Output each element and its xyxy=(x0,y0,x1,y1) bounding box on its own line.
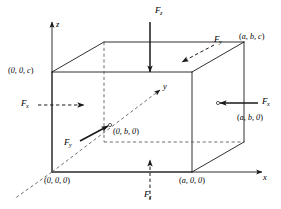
vertex-text: a, b, c xyxy=(242,32,262,41)
force-y-front-label: Fy xyxy=(64,138,72,147)
edge-top-right-oblique xyxy=(192,42,244,72)
paren-close: ) xyxy=(31,66,34,75)
paren-close: ) xyxy=(136,127,139,136)
force-subscript: z xyxy=(160,9,162,16)
x-axis-label: x xyxy=(263,173,267,182)
vertex-label-x-corner: (a, 0, 0) xyxy=(179,177,205,185)
vertex-label-xy-corner: (a, b, 0) xyxy=(237,114,263,122)
vertex-label-origin: (0, 0, 0) xyxy=(44,177,70,185)
vertex-text: a, 0, 0 xyxy=(182,176,202,185)
vertex-text: 0, 0, 0 xyxy=(47,176,67,185)
cube-solid-edges xyxy=(52,42,244,172)
force-x-right-label: Fx xyxy=(262,97,270,106)
z-axis-label: z xyxy=(56,20,59,29)
force-subscript: y xyxy=(69,141,72,148)
vertex-text: a, b, 0 xyxy=(240,113,260,122)
paren-close: ) xyxy=(260,113,263,122)
force-subscript: x xyxy=(26,102,29,109)
force-y-front-arrow xyxy=(80,126,108,141)
vertex-label-y-corner: (0, b, 0) xyxy=(113,128,139,136)
force-subscript: x xyxy=(267,100,270,107)
edge-top-left-oblique xyxy=(52,42,104,72)
paren-close: ) xyxy=(202,176,205,185)
vertex-label-z-corner: (0, 0, c) xyxy=(8,67,33,75)
paren-close: ) xyxy=(67,176,70,185)
force-cube-diagram: z y x (0, 0, c) (0, 0, 0) (a, 0, 0) (0, … xyxy=(0,0,281,209)
force-y-back-arrow xyxy=(182,45,214,62)
force-z-top-label: Fz xyxy=(155,6,163,15)
vertex-label-xyz-corner: (a, b, c) xyxy=(239,33,264,41)
paren-close: ) xyxy=(262,32,265,41)
force-subscript: y xyxy=(219,38,222,45)
force-y-back-label: Fy xyxy=(214,35,222,44)
force-y-front-tip-dot xyxy=(108,123,111,126)
vertex-text: 0, 0, c xyxy=(11,66,31,75)
force-z-bottom-label: Fz xyxy=(144,190,152,199)
force-x-left-label: Fx xyxy=(21,99,29,108)
force-x-right-origin-dot xyxy=(216,101,219,104)
force-subscript: z xyxy=(149,193,151,200)
y-axis-line xyxy=(52,90,160,172)
edge-bottom-right-oblique xyxy=(192,142,244,172)
y-axis-label: y xyxy=(163,82,167,91)
vertex-text: 0, b, 0 xyxy=(116,127,136,136)
